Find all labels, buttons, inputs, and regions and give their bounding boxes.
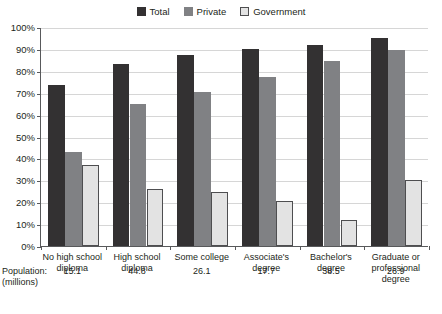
bar-total [48, 85, 65, 246]
bar-private [130, 104, 147, 246]
bar-total [371, 38, 388, 246]
category-label-line: Associate's [234, 252, 299, 263]
bar-group [242, 28, 293, 246]
x-axis-tick-mark [429, 246, 430, 250]
y-axis-label: 20% [16, 198, 35, 208]
bar-chart: Total Private Government 100%90%80%70%60… [0, 0, 442, 314]
legend-label-private: Private [197, 6, 227, 17]
bar-group [113, 28, 164, 246]
population-value: 26.1 [169, 266, 234, 277]
x-axis-tick-mark [300, 246, 301, 250]
x-axis-tick-mark [41, 246, 42, 250]
bar-total [113, 64, 130, 246]
category-label-line: Graduate or [363, 252, 428, 263]
x-axis-tick-mark [106, 246, 107, 250]
bar-total [177, 55, 194, 246]
x-axis-tick-mark [364, 246, 365, 250]
category-label-line: Some college [169, 252, 234, 263]
bar-private [324, 61, 341, 246]
population-value: 17.7 [234, 266, 299, 277]
bar-private [259, 77, 276, 246]
x-axis-tick-mark [170, 246, 171, 250]
legend-label-government: Government [253, 6, 305, 17]
plot-area: 100%90%80%70%60%50%40%30%20%10%0% [40, 28, 428, 247]
legend-item-total: Total [137, 6, 170, 17]
bar-total [307, 45, 324, 246]
legend-swatch-total-icon [137, 7, 146, 16]
bar-government [147, 189, 164, 246]
bars-layer [41, 28, 428, 246]
population-value: 26.9 [363, 266, 428, 277]
bar-government [82, 165, 99, 246]
population-values-row: 15.144.826.117.738.526.9 [40, 266, 428, 280]
chart-legend: Total Private Government [0, 6, 442, 17]
population-value: 44.8 [105, 266, 170, 277]
y-axis-label: 100% [11, 23, 35, 33]
bar-government [211, 192, 228, 246]
bar-private [194, 92, 211, 246]
bar-group [307, 28, 358, 246]
category-label-line: No high school [40, 252, 105, 263]
legend-swatch-private-icon [184, 7, 193, 16]
legend-item-private: Private [184, 6, 227, 17]
y-axis-label: 10% [16, 220, 35, 230]
y-axis-label: 40% [16, 154, 35, 164]
bar-total [242, 49, 259, 246]
y-axis-label: 50% [16, 133, 35, 143]
bar-government [341, 220, 358, 246]
y-axis-label: 0% [21, 242, 35, 252]
bar-private [65, 152, 82, 246]
category-label-line: High school [105, 252, 170, 263]
y-axis-label: 70% [16, 89, 35, 99]
x-axis-category-label: Some college [169, 252, 234, 263]
bar-group [371, 28, 422, 246]
legend-label-total: Total [150, 6, 170, 17]
category-label-line: Bachelor's [299, 252, 364, 263]
y-axis-label: 30% [16, 176, 35, 186]
bar-group [177, 28, 228, 246]
bar-private [388, 50, 405, 246]
bar-group [48, 28, 99, 246]
population-value: 38.5 [299, 266, 364, 277]
bar-government [276, 201, 293, 246]
x-axis-tick-mark [235, 246, 236, 250]
y-axis-label: 80% [16, 67, 35, 77]
y-axis-label: 90% [16, 45, 35, 55]
legend-swatch-government-icon [240, 7, 249, 16]
y-axis-label: 60% [16, 111, 35, 121]
population-value: 15.1 [40, 266, 105, 277]
legend-item-government: Government [240, 6, 305, 17]
bar-government [405, 180, 422, 246]
